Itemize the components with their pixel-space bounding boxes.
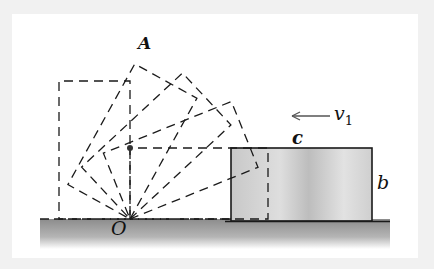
velocity-arrow [292, 112, 330, 120]
sliding-block [231, 148, 372, 221]
pivot-label-o: O [111, 217, 127, 239]
dashed-block-position [59, 81, 130, 219]
ground [40, 219, 390, 249]
corner-label-a: A [138, 33, 151, 53]
dashed-block-position [82, 73, 231, 219]
center-dot [127, 145, 133, 151]
velocity-symbol: v [334, 102, 345, 124]
velocity-subscript: 1 [345, 113, 353, 128]
velocity-label: v1 [334, 102, 353, 128]
tipping-block-diagram [0, 0, 434, 269]
height-label-b: b [377, 171, 389, 193]
width-label-c: c [292, 127, 303, 148]
